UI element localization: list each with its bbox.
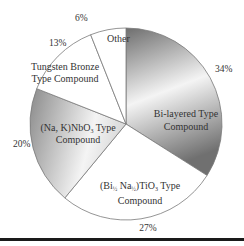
value-label-knn: 20% xyxy=(13,139,31,149)
pie-chart: Bi-layered Type Compound 34% (Bi½ Na½)Ti… xyxy=(0,0,244,246)
svg-text:Type Compound: Type Compound xyxy=(32,73,99,84)
svg-text:Compound: Compound xyxy=(118,195,162,206)
slice-label-other: Other xyxy=(107,33,130,44)
bottom-rule xyxy=(0,238,244,241)
svg-text:Bi-layered Type: Bi-layered Type xyxy=(154,108,219,119)
value-label-other: 6% xyxy=(75,13,88,23)
svg-text:Compound: Compound xyxy=(56,134,100,145)
slice-label-tungsten: Tungsten Bronze Type Compound xyxy=(31,61,100,84)
value-label-bnt: 27% xyxy=(139,223,157,233)
value-label-bi-layered: 34% xyxy=(215,64,233,74)
svg-text:Compound: Compound xyxy=(164,121,208,132)
svg-text:(Na, K)NbO3 Type: (Na, K)NbO3 Type xyxy=(40,122,116,134)
svg-text:Tungsten Bronze: Tungsten Bronze xyxy=(31,61,100,72)
value-label-tungsten: 13% xyxy=(49,38,67,48)
svg-text:(Bi½ Na½)TiO3 Type: (Bi½ Na½)TiO3 Type xyxy=(100,180,181,192)
